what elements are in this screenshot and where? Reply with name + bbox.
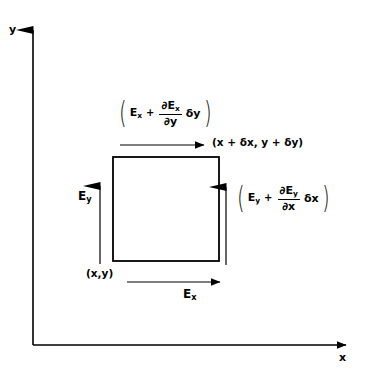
x-axis-label: x xyxy=(339,352,346,363)
right-expr-close-paren: ) xyxy=(322,186,329,211)
top-derivative-expression: ( Ex + ∂Ex ∂y δy ) xyxy=(117,100,213,127)
top-expr-fraction: ∂Ex ∂y xyxy=(159,100,181,127)
coordinate-label-top-right: (x + δx, y + δy) xyxy=(212,137,303,148)
top-expr-operator: + xyxy=(145,108,155,118)
top-expr-numerator-base: ∂E xyxy=(161,99,175,112)
top-expr-base-term: Ex xyxy=(130,107,142,120)
top-expr-open-paren: ( xyxy=(119,101,126,126)
y-axis-label: y xyxy=(9,24,16,35)
left-field-label: Ey xyxy=(78,190,92,203)
right-expr-base-subscript: y xyxy=(255,196,260,205)
right-expr-base-term: Ey xyxy=(248,192,260,205)
top-expr-base-subscript: x xyxy=(137,111,142,120)
differential-rectangle xyxy=(113,157,219,261)
left-field-base: E xyxy=(78,189,86,203)
coordinate-label-bottom-left: (x,y) xyxy=(86,268,113,279)
bottom-field-label: Ex xyxy=(183,288,196,301)
right-expr-numerator-subscript: y xyxy=(293,189,298,198)
bottom-field-subscript: x xyxy=(191,292,196,302)
figure-canvas: y x (x,y) (x + δx, y + δy) Ey Ex ( Ex + … xyxy=(0,0,369,371)
bottom-field-base: E xyxy=(183,287,191,301)
top-expr-delta: δy xyxy=(186,108,201,119)
right-derivative-expression: ( Ey + ∂Ey ∂x δx ) xyxy=(235,185,331,212)
right-expr-denominator: ∂x xyxy=(280,200,297,212)
top-expr-numerator-subscript: x xyxy=(175,104,180,113)
right-expr-open-paren: ( xyxy=(237,186,244,211)
right-expr-numerator: ∂Ey xyxy=(278,185,300,199)
top-expr-numerator: ∂Ex xyxy=(159,100,181,114)
top-expr-denominator: ∂y xyxy=(162,115,179,127)
right-expr-delta: δx xyxy=(304,193,319,204)
right-expr-operator: + xyxy=(263,193,273,203)
right-expr-numerator-base: ∂E xyxy=(280,184,294,197)
top-expr-close-paren: ) xyxy=(204,101,211,126)
right-expr-fraction: ∂Ey ∂x xyxy=(278,185,300,212)
left-field-subscript: y xyxy=(86,194,91,204)
